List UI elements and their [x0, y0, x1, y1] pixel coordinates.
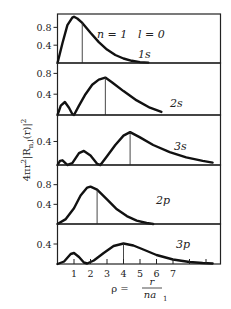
y-tick-label: 0.4 [36, 40, 51, 51]
panel-1s: 0.80.41s [36, 14, 220, 63]
x-tick-label: 5 [137, 268, 143, 279]
panel-2s: 0.80.42s [36, 63, 220, 115]
svg-text:4πr2|Rn,l(r)|2: 4πr2|Rn,l(r)|2 [20, 119, 35, 182]
y-tick-label: 0.8 [36, 68, 51, 79]
panels-group: 0.80.41s0.80.42s0.43s0.80.42p0.43p [36, 14, 220, 264]
panel-2p: 0.80.42p [36, 165, 220, 224]
svg-text:1: 1 [163, 295, 167, 303]
radial-probability-figure: 0.80.41s0.80.42s0.43s0.80.42p0.43p 12345… [0, 0, 231, 309]
panel-frame [58, 224, 221, 264]
x-tick-label: 3 [104, 268, 110, 279]
panel-frame [58, 115, 221, 165]
panel-label-2s: 2s [169, 97, 183, 110]
l-annotation: l = 0 [138, 28, 165, 41]
panel-label-2p: 2p [155, 194, 170, 207]
y-tick-label: 0.4 [36, 239, 51, 250]
x-axis-title: ρ = r na 1 [111, 276, 167, 303]
svg-text:na: na [144, 289, 156, 300]
y-axis-title: 4πr2|Rn,l(r)|2 [20, 119, 35, 182]
panel-label-1s: 1s [138, 48, 151, 61]
panel-3s: 0.43s [36, 115, 220, 165]
y-tick-label: 0.4 [36, 199, 51, 210]
y-tick-label: 0.8 [36, 179, 51, 190]
x-tick-label: 7 [170, 268, 176, 279]
x-tick-label: 2 [87, 268, 93, 279]
panel-label-3p: 3p [176, 238, 190, 251]
panel-label-3s: 3s [174, 140, 187, 153]
svg-text:ρ =: ρ = [111, 283, 128, 294]
y-tick-label: 0.8 [36, 22, 51, 33]
panel-frame [58, 63, 221, 115]
n-annotation: n = 1 [97, 28, 127, 41]
x-tick-label: 1 [71, 268, 77, 279]
x-tick-label: 4 [120, 268, 126, 279]
y-tick-label: 0.4 [36, 89, 51, 100]
curve-3s [58, 132, 213, 165]
curve-2s [58, 78, 162, 115]
curve-2p [58, 187, 154, 224]
panel-3p: 0.43p [36, 224, 220, 264]
y-tick-label: 0.4 [36, 136, 51, 147]
